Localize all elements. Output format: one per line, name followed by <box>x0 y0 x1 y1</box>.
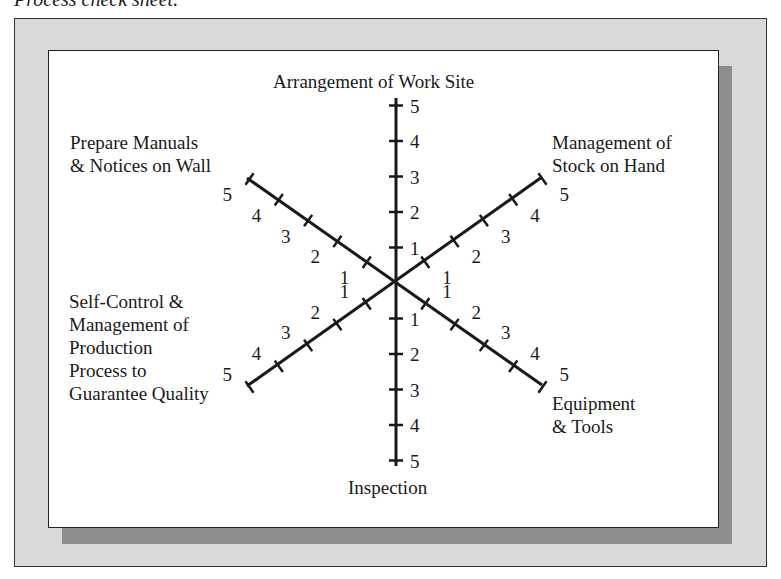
scale-number: 5 <box>410 451 420 472</box>
axis-label-lower-right: Equipment & Tools <box>552 392 635 438</box>
scale-number: 4 <box>252 205 262 226</box>
scale-number: 5 <box>223 184 233 205</box>
scale-number: 1 <box>340 281 350 302</box>
scale-number: 3 <box>410 167 420 188</box>
tick-mark <box>333 236 341 247</box>
scale-number: 2 <box>410 202 420 223</box>
scale-number: 5 <box>560 184 570 205</box>
scale-number: 3 <box>501 322 511 343</box>
scale-number: 4 <box>410 131 420 152</box>
scale-number: 1 <box>442 281 452 302</box>
axis-label-lower-left: Self-Control & Management of Production … <box>69 290 209 405</box>
scale-number: 3 <box>410 380 420 401</box>
axis-label-top: Arrangement of Work Site <box>273 70 474 93</box>
scale-number: 2 <box>310 302 320 323</box>
scale-number: 1 <box>410 309 420 330</box>
scale-number: 4 <box>530 343 540 364</box>
scale-number: 2 <box>472 246 482 267</box>
axis-label-upper-left: Prepare Manuals & Notices on Wall <box>70 131 211 177</box>
scale-number: 3 <box>501 226 511 247</box>
scale-number: 2 <box>310 246 320 267</box>
scale-number: 4 <box>410 415 420 436</box>
scale-number: 3 <box>281 226 291 247</box>
scale-number: 5 <box>560 364 570 385</box>
scale-number: 2 <box>410 344 420 365</box>
scale-number: 2 <box>472 302 482 323</box>
scale-number: 3 <box>281 322 291 343</box>
scale-number: 5 <box>410 96 420 117</box>
axis-label-upper-right: Management of Stock on Hand <box>552 131 672 177</box>
scale-number: 4 <box>530 205 540 226</box>
scale-number: 5 <box>223 364 233 385</box>
scale-number: 1 <box>410 238 420 259</box>
axis-label-bottom: Inspection <box>348 476 427 499</box>
scale-number: 4 <box>252 343 262 364</box>
